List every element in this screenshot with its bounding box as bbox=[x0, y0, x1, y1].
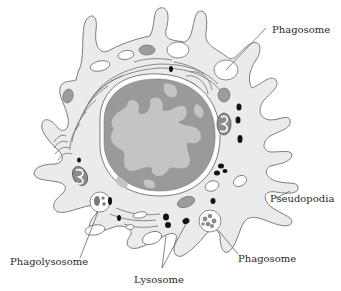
label-phagosome-top: Phagosome bbox=[272, 25, 330, 35]
macrophage-diagram: Phagosome Pseudopodia Phagolysosome Lyso… bbox=[0, 0, 341, 291]
label-lysosome: Lysosome bbox=[134, 275, 184, 285]
label-pseudopodia: Pseudopodia bbox=[270, 194, 334, 204]
label-phagosome-bottom: Phagosome bbox=[238, 254, 296, 264]
cell-illustration bbox=[0, 0, 341, 291]
phagosome-bottom bbox=[199, 210, 221, 232]
nucleus bbox=[100, 74, 220, 196]
label-phagolysosome: Phagolysosome bbox=[10, 257, 88, 267]
